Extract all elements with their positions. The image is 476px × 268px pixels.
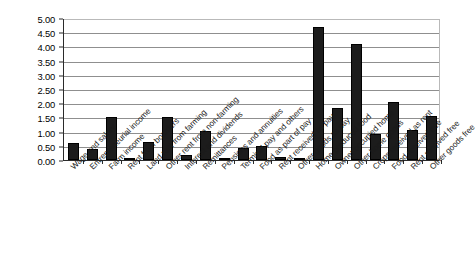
- x-axis-category-labels: Wage and salaryEntrepreneurial incomeFar…: [0, 0, 459, 268]
- bar-chart: 5.004.504.003.503.002.502.001.501.000.50…: [0, 0, 459, 268]
